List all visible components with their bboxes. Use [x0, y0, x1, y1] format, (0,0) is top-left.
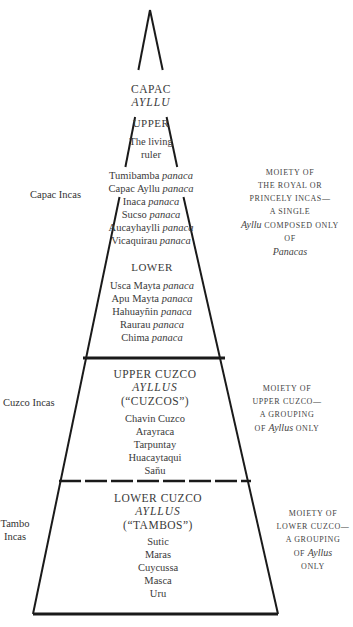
side-label-cuzco-incas: Cuzco Incas: [3, 398, 55, 409]
ayllu-item: Uru: [138, 587, 178, 600]
ayllu-item: Sutic: [138, 535, 178, 548]
ayllu-item: Huacaytaqui: [125, 451, 185, 464]
panaca-item: Apu Mayta panaca: [110, 292, 194, 305]
ayllu-item: Cuycussa: [138, 561, 178, 574]
upper-cuzco-ayllu-list: Chavin Cuzco Arayraca Tarpuntay Huacayta…: [125, 412, 185, 477]
upper-panaca-list: Tumibamba panaca Capac Ayllu panaca Inac…: [109, 169, 194, 247]
lower-cuzco-ayllu-list: Sutic Maras Cuycussa Masca Uru: [138, 535, 178, 600]
upper-cuzco-subheading: AYLLUS: [132, 382, 178, 394]
upper-cuzco-alias: (“CUZCOS”): [121, 396, 189, 408]
ayllu-item: Tarpuntay: [125, 438, 185, 451]
panaca-item: Vicaquirau panaca: [109, 234, 194, 247]
capac-title: CAPAC: [131, 84, 171, 96]
note-upper-cuzco-moiety: MOIETY OF UPPER CUZCO— A GROUPING OF Ayl…: [252, 382, 321, 435]
panaca-item: Raurau panaca: [110, 318, 194, 331]
side-label-tambo-incas: Tambo Incas: [0, 517, 29, 543]
lower-cuzco-alias: (“TAMBOS”): [123, 520, 193, 532]
living-ruler: The living ruler: [129, 135, 172, 161]
ayllu-item: Masca: [138, 574, 178, 587]
living-ruler-line2: ruler: [129, 148, 172, 161]
note-capac-moiety: MOIETY OF THE ROYAL OR PRINCELY INCAS— A…: [241, 166, 339, 259]
panaca-item: Capac Ayllu panaca: [109, 182, 194, 195]
lower-cuzco-subheading: AYLLUS: [135, 506, 181, 518]
living-ruler-line1: The living: [129, 135, 172, 148]
panaca-item: Sucso panaca: [109, 208, 194, 221]
ayllu-item: Arayraca: [125, 425, 185, 438]
ayllu-item: Maras: [138, 548, 178, 561]
pyramid-right-edge-top: [150, 10, 163, 70]
panaca-item: Tumibamba panaca: [109, 169, 194, 182]
upper-heading: UPPER: [133, 118, 170, 129]
panaca-item: Aucayhaylli panaca: [109, 221, 194, 234]
lower-heading: LOWER: [131, 262, 173, 273]
upper-cuzco-heading: UPPER CUZCO: [113, 369, 196, 381]
lower-cuzco-heading: LOWER CUZCO: [114, 493, 202, 505]
panaca-item: Hahuayñin panaca: [110, 305, 194, 318]
panaca-item: Inaca panaca: [109, 195, 194, 208]
side-label-capac-incas: Capac Incas: [30, 190, 81, 201]
note-lower-cuzco-moiety: MOIETY OF LOWER CUZCO— A GROUPING OF Ayl…: [277, 507, 350, 573]
lower-panaca-list: Usca Mayta panaca Apu Mayta panaca Hahua…: [110, 279, 194, 344]
panaca-item: Usca Mayta panaca: [110, 279, 194, 292]
panaca-item: Chima panaca: [110, 331, 194, 344]
pyramid-left-edge-top: [138, 10, 150, 70]
capac-subtitle: AYLLU: [132, 97, 171, 109]
ayllu-item: Chavin Cuzco: [125, 412, 185, 425]
ayllu-item: Saňu: [125, 464, 185, 477]
